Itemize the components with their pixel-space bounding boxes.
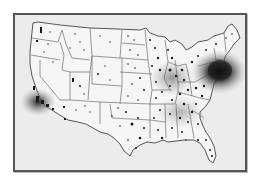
us-outline xyxy=(30,22,240,163)
us-dot-density-map xyxy=(0,0,263,182)
northeast-density-core xyxy=(208,60,232,80)
southeast-density xyxy=(156,96,204,128)
